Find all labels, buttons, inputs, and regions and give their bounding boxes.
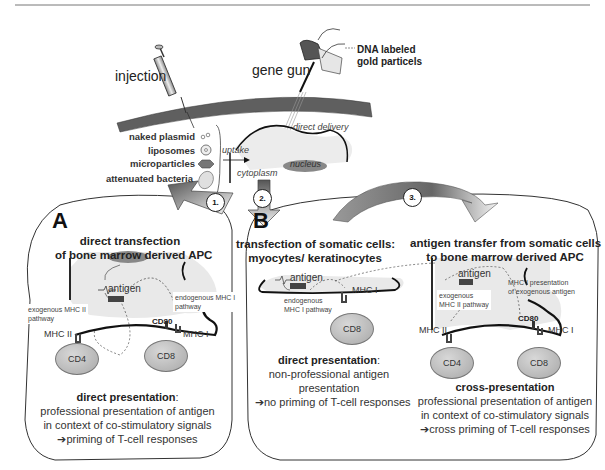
antigen-block-b-left xyxy=(290,283,306,289)
panel-a-caption: direct presentation: professional presen… xyxy=(40,390,215,446)
panel-b-right-title: antigen transfer from somatic cells to b… xyxy=(410,236,600,264)
panel-b-letter: B xyxy=(253,208,269,234)
mhc2-label-b: MHC II xyxy=(419,325,447,335)
panel-a-title: direct transfection of bone marrow deriv… xyxy=(55,234,205,262)
mhc1-label-b-right: MHC I xyxy=(548,325,574,335)
nucleus-label: nucleus xyxy=(290,159,321,169)
cytoplasm-label: cytoplasm xyxy=(237,168,278,178)
antigen-label-a: antigen xyxy=(108,283,141,294)
legend-attenuated-bacteria: attenuated bacteria xyxy=(90,173,193,184)
uptake-label: uptake xyxy=(222,145,249,155)
step-2-badge: 2. xyxy=(253,189,272,208)
antigen-block-b-right xyxy=(459,279,473,285)
gene-gun-label: gene gun xyxy=(252,62,310,78)
cd80-label-a: CD80 xyxy=(152,317,172,326)
panel-a-letter: A xyxy=(52,208,68,234)
legend-microparticles: microparticles xyxy=(100,158,195,169)
cd4-tcell-a: CD4 xyxy=(55,343,99,375)
cd8-tcell-a: CD8 xyxy=(144,340,188,372)
gold-particles-label: DNA labeled gold particels xyxy=(357,44,422,68)
legend-naked-plasmid: naked plasmid xyxy=(100,131,195,142)
injection-label: injection xyxy=(115,68,166,84)
cd80-label-b: CD80 xyxy=(518,314,538,323)
cd8-tcell-b-left: CD8 xyxy=(330,313,374,345)
antigen-block-a xyxy=(108,296,124,302)
step-1-badge: 1. xyxy=(206,193,225,212)
cd8-tcell-b-right: CD8 xyxy=(517,347,561,379)
panel-b-left-caption: direct presentation: non-professional an… xyxy=(255,353,403,409)
mhc1-label-a: MHC I xyxy=(183,329,209,339)
cd4-tcell-b: CD4 xyxy=(430,347,474,379)
mhc1-presentation-label: MHC I presentation of exogenous antigen xyxy=(508,278,575,296)
panel-b-left-title: transfection of somatic cells: myocytes/… xyxy=(236,237,394,265)
antigen-label-b-left: antigen xyxy=(290,272,323,283)
endo-pathway-label-b: endogenous MHC I pathway xyxy=(284,296,332,314)
exo-pathway-label-a: exogenous MHC II pathway xyxy=(26,304,88,324)
mhc2-label-a: MHC II xyxy=(44,329,72,339)
endo-pathway-label-a: endogenous MHC I pathway xyxy=(173,292,237,312)
mhc1-label-b-left: MHC I xyxy=(352,285,378,295)
step-3-badge: 3. xyxy=(403,188,422,207)
direct-delivery-label: direct delivery xyxy=(293,122,349,132)
exo-pathway-label-b: exogenous MHC II pathway xyxy=(437,290,491,310)
legend-liposomes: liposomes xyxy=(100,145,195,156)
panel-b-right-caption: cross-presentation professional presenta… xyxy=(415,380,595,436)
antigen-label-b-right: antigen xyxy=(458,268,491,279)
